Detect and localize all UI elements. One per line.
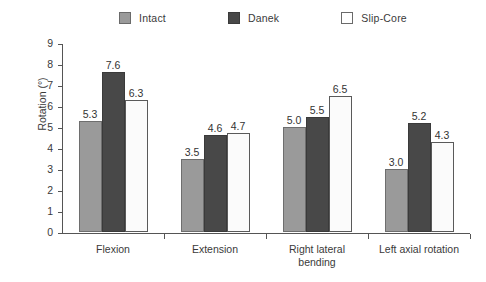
y-axis-tick-label: 3 xyxy=(47,163,53,176)
y-axis-tick-label: 2 xyxy=(47,184,53,197)
bar-intact: 5.3 xyxy=(79,121,102,232)
bar-group: 5.05.56.5 xyxy=(283,43,352,232)
y-axis-tick-label: 9 xyxy=(47,37,53,50)
legend-label-danek: Danek xyxy=(248,12,279,24)
x-axis-category-label: Extension xyxy=(164,243,266,256)
y-axis-tick-label: 7 xyxy=(47,79,53,92)
y-axis-tick-label: 4 xyxy=(47,142,53,155)
y-axis-tick-label: 5 xyxy=(47,121,53,134)
y-axis-tick: 3 xyxy=(58,170,62,171)
bar-value-label: 3.5 xyxy=(185,146,200,158)
bar-slip-core: 6.3 xyxy=(125,100,148,232)
bar-value-label: 4.7 xyxy=(231,120,246,132)
x-axis-category-label: Left axial rotation xyxy=(368,243,470,256)
legend-label-intact: Intact xyxy=(139,12,166,24)
x-axis-category-label: Right lateral bending xyxy=(266,243,368,269)
bar-danek: 5.2 xyxy=(408,123,431,232)
y-axis-tick: 9 xyxy=(58,44,62,45)
x-axis-tick xyxy=(164,234,165,239)
y-axis-tick-label: 8 xyxy=(47,58,53,71)
legend-swatch-slip-core xyxy=(341,12,353,24)
bar-value-label: 5.2 xyxy=(412,110,427,122)
legend-label-slip-core: Slip-Core xyxy=(361,12,407,24)
bar-value-label: 5.3 xyxy=(83,108,98,120)
legend-item-slip-core: Slip-Core xyxy=(341,12,407,24)
x-axis-tick xyxy=(266,234,267,239)
legend-item-intact: Intact xyxy=(119,12,166,24)
x-axis-category-label: Flexion xyxy=(62,243,164,256)
bar-slip-core: 6.5 xyxy=(329,96,352,233)
bar-group: 3.54.64.7 xyxy=(181,43,250,232)
bar-danek: 4.6 xyxy=(204,135,227,232)
bar-value-label: 6.3 xyxy=(129,87,144,99)
bar-intact: 5.0 xyxy=(283,127,306,232)
y-axis-tick: 4 xyxy=(58,149,62,150)
bar-intact: 3.0 xyxy=(385,169,408,232)
plot-area: 9876543210 5.37.66.33.54.64.75.05.56.53.… xyxy=(62,44,470,233)
y-axis-tick: 6 xyxy=(58,107,62,108)
bar-value-label: 5.0 xyxy=(287,114,302,126)
bar-value-label: 7.6 xyxy=(106,59,121,71)
chart-legend: Intact Danek Slip-Core xyxy=(0,12,486,24)
bar-danek: 7.6 xyxy=(102,72,125,232)
y-axis-tick: 7 xyxy=(58,86,62,87)
bar-value-label: 3.0 xyxy=(389,156,404,168)
bar-slip-core: 4.7 xyxy=(227,133,250,232)
y-axis-tick: 2 xyxy=(58,191,62,192)
bar-intact: 3.5 xyxy=(181,159,204,233)
x-axis-tick xyxy=(368,234,369,239)
bar-value-label: 4.6 xyxy=(208,122,223,134)
bar-value-label: 6.5 xyxy=(333,83,348,95)
bar-chart: Intact Danek Slip-Core Rotation (°) 9876… xyxy=(0,0,486,282)
y-axis-tick-label: 0 xyxy=(47,226,53,239)
y-axis-line xyxy=(62,44,63,234)
bar-group: 3.05.24.3 xyxy=(385,43,454,232)
bar-value-label: 5.5 xyxy=(310,104,325,116)
y-axis-tick: 0 xyxy=(58,233,62,234)
y-axis-tick-label: 6 xyxy=(47,100,53,113)
y-axis-tick-label: 1 xyxy=(47,205,53,218)
bar-value-label: 4.3 xyxy=(435,129,450,141)
legend-item-danek: Danek xyxy=(228,12,279,24)
bar-danek: 5.5 xyxy=(306,117,329,233)
y-axis-tick: 5 xyxy=(58,128,62,129)
y-axis-tick: 8 xyxy=(58,65,62,66)
bar-group: 5.37.66.3 xyxy=(79,43,148,232)
y-axis-tick: 1 xyxy=(58,212,62,213)
bar-slip-core: 4.3 xyxy=(431,142,454,232)
legend-swatch-danek xyxy=(228,12,240,24)
legend-swatch-intact xyxy=(119,12,131,24)
x-axis-tick xyxy=(470,234,471,239)
